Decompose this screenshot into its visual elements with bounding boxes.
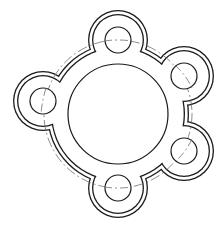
bolt-hole-upper-right	[171, 63, 197, 89]
bolt-hole-left	[30, 88, 56, 114]
flange-drawing	[0, 0, 224, 225]
bolt-hole-lower-right	[171, 138, 197, 164]
bolt-hole-bottom	[105, 175, 131, 201]
bolt-hole-top	[105, 27, 131, 53]
